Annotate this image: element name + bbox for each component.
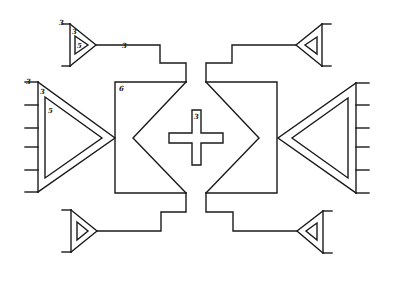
top-right-connector <box>206 45 296 82</box>
top-right-small-triangle <box>296 24 331 66</box>
label-top-left-mid: 3 <box>72 27 77 36</box>
label-center-cross: 3 <box>194 112 199 121</box>
label-left-inner: 5 <box>48 106 53 115</box>
label-top-left-inner: 5 <box>77 41 82 50</box>
label-left-block: 6 <box>119 84 124 93</box>
bottom-right-connector <box>206 193 297 231</box>
label-top-left-outer: 3 <box>59 18 64 27</box>
bottom-right-small-triangle <box>297 211 332 253</box>
center-cross: 3 <box>169 110 223 165</box>
diagram-canvas: 3 3 5 3 3 3 5 <box>0 0 394 282</box>
left-large-triangle: 3 3 5 <box>25 77 115 192</box>
label-left-outer: 3 <box>26 77 31 86</box>
bottom-left-connector <box>97 193 186 231</box>
right-large-triangle <box>278 83 369 193</box>
right-block <box>206 82 277 193</box>
label-top-left-output: 3 <box>122 41 127 50</box>
bottom-left-small-triangle <box>62 210 97 252</box>
top-left-connector: 3 <box>96 41 186 82</box>
left-block: 6 <box>115 82 186 193</box>
label-left-mid: 3 <box>40 87 45 96</box>
top-left-small-triangle: 3 3 5 <box>59 18 96 66</box>
